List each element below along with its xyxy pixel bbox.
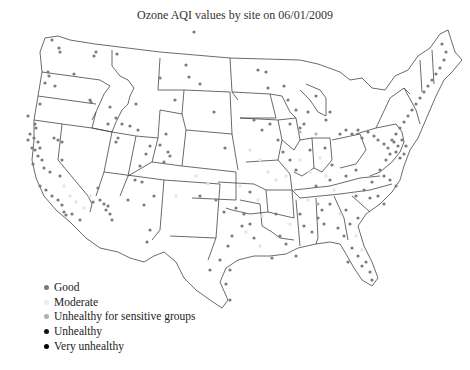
legend-item-moderate: Moderate <box>44 295 196 310</box>
legend-item-unhealthy: Unhealthy <box>44 324 196 339</box>
usg-marker-icon <box>44 314 49 319</box>
legend-item-very-unhealthy: Very unhealthy <box>44 339 196 354</box>
moderate-site-markers <box>62 148 363 251</box>
unhealthy-marker-icon <box>44 329 49 334</box>
legend-label: Unhealthy <box>54 324 102 339</box>
legend-item-usg: Unhealthy for sensitive groups <box>44 309 196 324</box>
map-legend: Good Moderate Unhealthy for sensitive gr… <box>44 280 196 353</box>
legend-label: Unhealthy for sensitive groups <box>54 309 196 324</box>
very-unhealthy-marker-icon <box>44 344 49 349</box>
legend-label: Moderate <box>54 295 98 310</box>
usg-site-markers <box>298 130 319 205</box>
good-marker-icon <box>44 285 49 290</box>
legend-label: Very unhealthy <box>54 339 124 354</box>
state-boundaries <box>32 30 462 308</box>
moderate-marker-icon <box>44 300 49 305</box>
legend-label: Good <box>54 280 80 295</box>
legend-item-good: Good <box>44 280 196 295</box>
